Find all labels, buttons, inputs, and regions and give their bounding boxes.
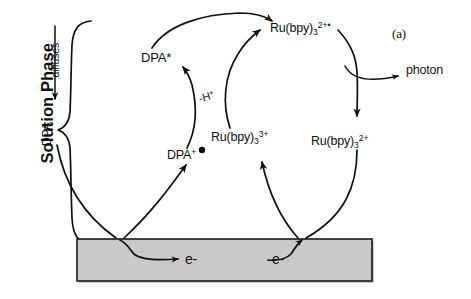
ru-oxidized-to-excited-arc [225, 30, 260, 128]
panel-label: (a) [392, 27, 406, 40]
reaction-scheme-canvas [0, 0, 471, 299]
ru-ground-to-electrode-path [306, 150, 357, 238]
ru-oxidized-charge: 3+ [259, 129, 269, 139]
ru-ground-label: Ru(bpy)32+ [311, 134, 369, 150]
electrode [77, 239, 374, 283]
photon-emission-arrow [345, 66, 398, 79]
ecl-mechanism-figure: { "figure": { "panel_label": "(a)", "tit… [0, 0, 471, 299]
dpa-radical-dot [199, 147, 205, 153]
electron-label-left: e- [185, 252, 197, 266]
photon-label: photon [406, 64, 443, 77]
energy-transfer-arc [152, 13, 272, 48]
ru-excited-label: Ru(bpy)32+• [270, 21, 330, 37]
dpa-excited-label: DPA* [141, 51, 171, 64]
electron-label-right: e- [272, 252, 284, 266]
ru-ground-charge: 2+ [359, 133, 369, 143]
ru-excited-charge: 2+• [318, 20, 331, 30]
electrode-to-ru-oxidized-arrow [262, 162, 298, 238]
diffuses-label: diffuses [50, 30, 61, 90]
ru-oxidized-label: Ru(bpy)33+ [211, 130, 269, 146]
dpa-radical-to-excited-arrow [183, 67, 195, 148]
ru-excited-base: Ru(bpy) [270, 21, 313, 35]
ru-oxidized-base: Ru(bpy) [211, 130, 254, 144]
dpa-radical-charge: + [191, 147, 196, 157]
dpa-to-electrode-path [57, 145, 116, 238]
electrode-to-dpa-radical-arrow [124, 165, 186, 238]
ru-ground-base: Ru(bpy) [311, 134, 354, 148]
ru-excited-to-ground-path [338, 30, 357, 116]
dpa-label: DPA [41, 108, 54, 160]
ru-excited-charge-text: 2+ [318, 20, 328, 30]
dpa-radical-base: DPA [167, 148, 191, 162]
dpa-radical-cation-label: DPA+ [167, 148, 196, 162]
ru-excited-radical-dot: • [328, 20, 331, 30]
